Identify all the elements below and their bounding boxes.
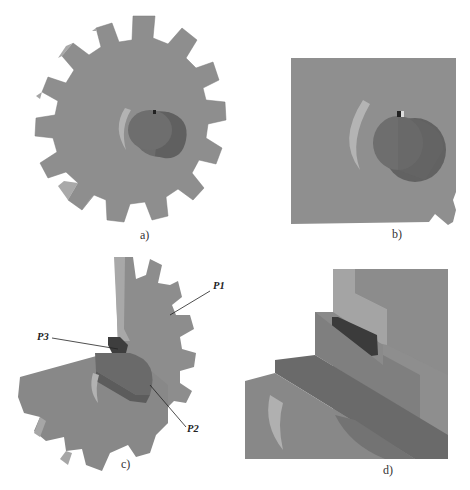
gear-illustration-b bbox=[235, 0, 470, 245]
panel-a-gear: a) bbox=[0, 0, 235, 245]
gear-illustration-c bbox=[0, 245, 235, 490]
callout-p2: P2 bbox=[187, 423, 199, 434]
keyway-mark bbox=[397, 111, 401, 117]
gear-illustration-d bbox=[235, 245, 470, 490]
keyway-mark bbox=[153, 110, 156, 114]
panel-b-hub-closeup: b) bbox=[235, 0, 470, 245]
panel-d-key-closeup: d) bbox=[235, 245, 470, 490]
callout-p1: P1 bbox=[213, 280, 225, 291]
caption-c: c) bbox=[121, 457, 130, 472]
caption-b: b) bbox=[392, 227, 402, 242]
caption-a: a) bbox=[140, 228, 149, 243]
caption-d: d) bbox=[383, 463, 393, 478]
panel-c-section: P1 P3 P2 c) bbox=[0, 245, 235, 490]
gear-illustration-a bbox=[0, 0, 235, 245]
gear-body bbox=[35, 16, 226, 222]
callout-p3: P3 bbox=[37, 331, 49, 342]
